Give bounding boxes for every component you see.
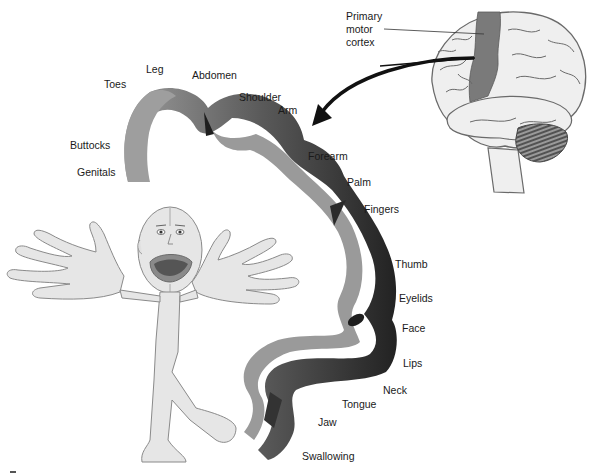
label-leg: Leg — [146, 64, 164, 75]
corner-mark — [10, 471, 16, 473]
primary-motor-cortex-label: Primary motor cortex — [346, 10, 382, 49]
label-swallowing: Swallowing — [302, 451, 355, 462]
brainstem — [488, 148, 524, 193]
diagram-canvas — [0, 0, 593, 475]
label-line-2: motor — [346, 23, 382, 36]
label-abdomen: Abdomen — [192, 70, 237, 81]
label-genitals: Genitals — [77, 167, 116, 178]
label-lips: Lips — [403, 358, 422, 369]
label-toes: Toes — [104, 79, 126, 90]
cerebellum — [516, 124, 568, 162]
label-eyelids: Eyelids — [399, 293, 433, 304]
label-buttocks: Buttocks — [70, 140, 110, 151]
label-tongue: Tongue — [342, 399, 376, 410]
label-thumb: Thumb — [395, 259, 428, 270]
label-fingers: Fingers — [364, 204, 399, 215]
label-forearm: Forearm — [308, 151, 348, 162]
motor-homunculus-figure: Primary motor cortex Toes Leg Abdomen Bu… — [0, 0, 593, 475]
label-neck: Neck — [383, 385, 407, 396]
label-face: Face — [402, 323, 425, 334]
label-arm: Arm — [278, 105, 297, 116]
label-line-3: cortex — [346, 36, 382, 49]
label-jaw: Jaw — [318, 417, 337, 428]
left-hand — [7, 222, 124, 299]
label-shoulder: Shoulder — [239, 92, 281, 103]
left-arm — [120, 290, 160, 302]
right-arm — [180, 290, 198, 302]
right-hand — [192, 230, 299, 304]
label-palm: Palm — [347, 177, 371, 188]
label-line-1: Primary — [346, 10, 382, 23]
brain-illustration — [380, 12, 586, 193]
body-and-legs — [142, 292, 236, 462]
